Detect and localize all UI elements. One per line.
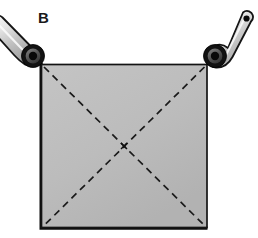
left-hub-core <box>29 52 37 60</box>
square-plate-group <box>40 63 208 230</box>
panel-label: B <box>38 8 60 28</box>
right-pivot-hub[interactable] <box>204 45 227 68</box>
right-linkage-arm[interactable] <box>204 11 254 68</box>
figure-canvas: B <box>0 0 258 238</box>
right-arm-tip-pin[interactable] <box>243 15 249 21</box>
mechanism-diagram-svg <box>0 0 258 238</box>
left-pivot-hub[interactable] <box>22 45 45 68</box>
right-hub-core <box>211 52 219 60</box>
